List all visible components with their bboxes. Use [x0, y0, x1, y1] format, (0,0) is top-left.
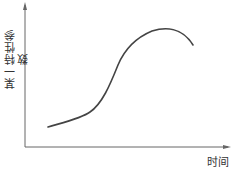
- x-axis-arrow-icon: [223, 145, 231, 149]
- y-axis-arrow-icon: [23, 2, 27, 10]
- x-axis-label: 时间: [207, 153, 229, 169]
- chart-canvas: [0, 0, 241, 169]
- y-axis-label: 某一特性参数: [4, 28, 18, 90]
- data-curve: [48, 29, 193, 127]
